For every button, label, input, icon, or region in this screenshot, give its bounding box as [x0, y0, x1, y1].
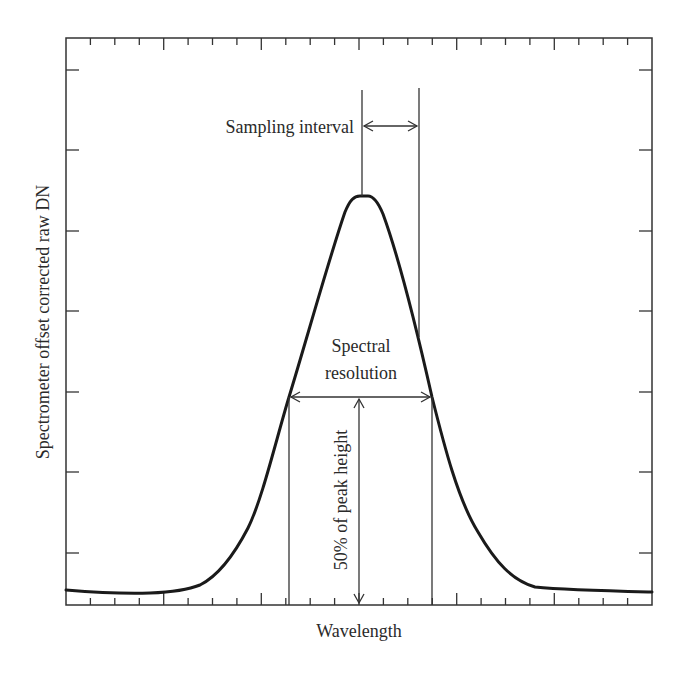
spectral-resolution-label-line2: resolution [325, 363, 397, 383]
half-peak-label: 50% of peak height [331, 430, 351, 570]
half-peak-annotation: 50% of peak height [331, 399, 359, 603]
left-axis-ticks [66, 70, 79, 553]
y-axis-label: Spectrometer offset corrected raw DN [33, 185, 53, 460]
spectral-resolution-label-line1: Spectral [332, 336, 391, 356]
spectral-resolution-diagram: Sampling interval Spectral resolution 50… [0, 0, 686, 673]
top-axis-ticks [90, 38, 627, 50]
sampling-interval-label: Sampling interval [226, 117, 354, 137]
x-axis-label: Wavelength [316, 621, 402, 641]
right-axis-ticks [639, 70, 652, 553]
sampling-interval-annotation: Sampling interval [226, 88, 419, 337]
spectral-resolution-annotation: Spectral resolution [289, 336, 432, 605]
